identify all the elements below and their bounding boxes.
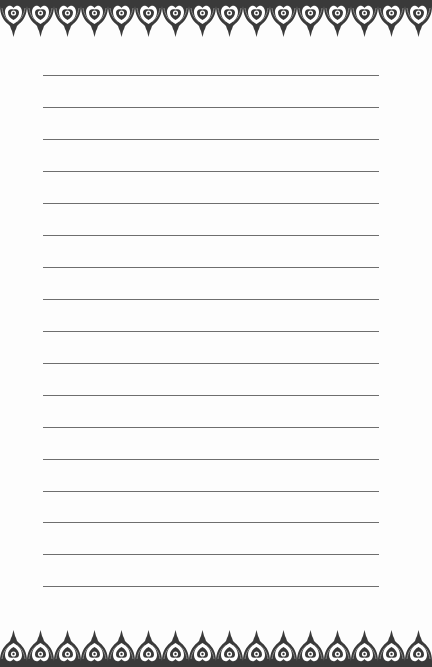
- ruled-line: [43, 299, 379, 300]
- ruled-line: [43, 586, 379, 587]
- ruled-line: [43, 522, 379, 523]
- ruled-line: [43, 363, 379, 364]
- stationery-page: [0, 0, 432, 667]
- paisley-border-bottom-icon: [0, 625, 432, 667]
- ruled-line: [43, 491, 379, 492]
- bottom-ornamental-border: [0, 625, 432, 667]
- ruled-line: [43, 427, 379, 428]
- ruled-line: [43, 331, 379, 332]
- ruled-line: [43, 554, 379, 555]
- ruled-line: [43, 267, 379, 268]
- ruled-line: [43, 171, 379, 172]
- ruled-line: [43, 107, 379, 108]
- ruled-lines: [0, 0, 432, 667]
- ruled-line: [43, 235, 379, 236]
- ruled-line: [43, 139, 379, 140]
- ruled-line: [43, 203, 379, 204]
- ruled-line: [43, 75, 379, 76]
- ruled-line: [43, 459, 379, 460]
- ruled-line: [43, 395, 379, 396]
